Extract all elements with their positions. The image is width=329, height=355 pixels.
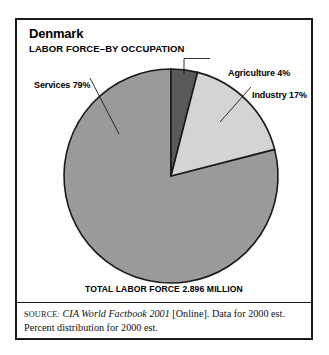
source-word: SOURCE: [24,310,60,319]
source-note: SOURCE: CIA World Factbook 2001 [Online]… [24,308,304,334]
slice-label-services: Services 79% [34,80,90,90]
total-labor-force-label: TOTAL LABOR FORCE 2.896 MILLION [17,284,311,294]
source-publication: CIA World Factbook 2001 [63,308,170,319]
slice-label-industry: Industry 17% [252,90,307,100]
chart-frame: Denmark LABOR FORCE–BY OCCUPATION Agricu… [15,18,313,340]
footer-divider [17,302,311,303]
slice-label-agriculture: Agriculture 4% [228,68,290,78]
